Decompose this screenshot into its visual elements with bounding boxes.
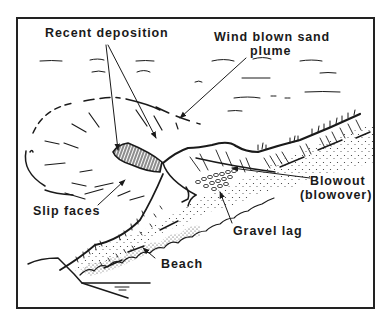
label-plume: plume [250,44,291,58]
label-beach: Beach [161,257,203,271]
slip-face-deposit [113,143,162,172]
label-blowout: Blowout [310,174,366,188]
water-ripples [40,58,340,112]
label-recent-deposition: Recent deposition [45,26,169,40]
label-blowover: (blowover) [300,188,372,202]
label-gravel-lag: Gravel lag [233,224,302,238]
dune-blowout-diagram: Recent deposition Wind blown sand plume … [0,0,390,327]
label-slip-faces: Slip faces [33,204,100,218]
label-wind-blown-sand: Wind blown sand [214,30,330,44]
